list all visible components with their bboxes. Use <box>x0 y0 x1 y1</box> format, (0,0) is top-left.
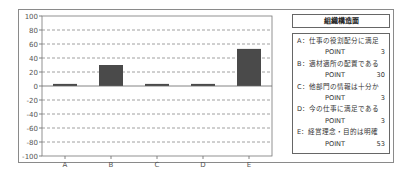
y-tick-label: 80 <box>29 27 38 35</box>
legend-item-d: D：今の仕事に満足である <box>297 104 385 115</box>
y-tick-label: 40 <box>29 55 38 63</box>
legend-point-e: POINT53 <box>297 139 385 150</box>
legend-point-a: POINT3 <box>297 47 385 58</box>
x-tick-label: D <box>200 161 205 169</box>
axes <box>42 16 272 156</box>
legend-point-d: POINT3 <box>297 116 385 127</box>
legend-item-a: A：仕事の役割配分に満足 <box>297 36 385 47</box>
bar-e <box>237 49 261 86</box>
y-tick-label: -100 <box>22 153 38 161</box>
y-tick-label: -20 <box>27 97 38 105</box>
y-tick-label: -40 <box>27 111 38 119</box>
bars <box>53 49 261 86</box>
y-tick-label: 0 <box>34 83 38 91</box>
legend-title: 組織構造面 <box>292 14 390 28</box>
y-tick-label: -80 <box>27 139 38 147</box>
legend-item-c: C：他部門の情報は十分か <box>297 82 385 93</box>
x-tick-label: B <box>109 161 114 169</box>
y-axis-ticks: 100806040200-20-40-60-80-100 <box>22 13 42 161</box>
y-tick-label: 60 <box>29 41 38 49</box>
y-tick-label: 100 <box>25 13 38 21</box>
x-tick-label: E <box>247 161 251 169</box>
y-tick-label: 20 <box>29 69 38 77</box>
y-tick-label: -60 <box>27 125 38 133</box>
bar-b <box>99 65 123 86</box>
x-tick-label: A <box>63 161 68 169</box>
x-tick-label: C <box>155 161 160 169</box>
legend-point-c: POINT3 <box>297 93 385 104</box>
legend-item-b: B：適材適所の配置である <box>297 59 385 70</box>
legend-box: A：仕事の役割配分に満足 POINT3 B：適材適所の配置である POINT30… <box>292 33 390 154</box>
x-axis-ticks: ABCDE <box>63 156 252 169</box>
legend-item-e: E：経営理念・目的は明確 <box>297 127 385 138</box>
legend: 組織構造面 A：仕事の役割配分に満足 POINT3 B：適材適所の配置である P… <box>292 14 390 153</box>
legend-point-b: POINT30 <box>297 70 385 81</box>
